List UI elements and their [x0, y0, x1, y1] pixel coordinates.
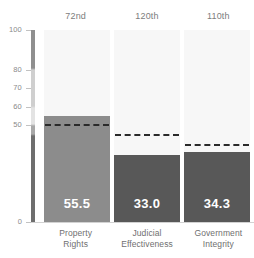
category-label-row: Property Rights Judicial Effectiveness G…	[40, 228, 254, 256]
bar-group-property-rights: 55.5	[44, 24, 110, 228]
rank-header-row: 72nd 120th 110th	[40, 8, 254, 24]
bar-value-government-integrity: 34.3	[184, 196, 250, 211]
category-label-judicial-effectiveness: Judicial Effectiveness	[111, 228, 182, 256]
rank-label-judicial-effectiveness: 120th	[111, 8, 182, 24]
bar-value-judicial-effectiveness: 33.0	[114, 196, 180, 211]
category-label-government-integrity: Government Integrity	[183, 228, 254, 256]
axis-spine	[31, 30, 35, 223]
world-average-line-property-rights	[45, 124, 109, 126]
bar-value-property-rights: 55.5	[44, 196, 110, 211]
world-average-line-government-integrity	[185, 144, 249, 146]
bar-chart: 72nd 120th 110th 100 80 70 60 50 0	[0, 0, 254, 258]
y-tick-0: 0	[0, 217, 32, 227]
y-tick-60: 60	[0, 102, 32, 112]
y-tick-50: 50	[0, 120, 32, 130]
bar-judicial-effectiveness[interactable]: 33.0	[114, 155, 180, 222]
x-axis-baseline	[31, 222, 254, 223]
plot-area: 55.5 33.0 34.3	[40, 24, 254, 228]
bar-group-judicial-effectiveness: 33.0	[114, 24, 180, 228]
category-label-property-rights: Property Rights	[40, 228, 111, 256]
bar-group-government-integrity: 34.3	[184, 24, 250, 228]
bar-government-integrity[interactable]: 34.3	[184, 152, 250, 222]
world-average-line-judicial-effectiveness	[115, 134, 179, 136]
rank-label-property-rights: 72nd	[40, 8, 111, 24]
y-tick-80: 80	[0, 65, 32, 75]
rank-label-government-integrity: 110th	[183, 8, 254, 24]
y-tick-100: 100	[0, 25, 32, 35]
bar-property-rights[interactable]: 55.5	[44, 116, 110, 222]
y-tick-70: 70	[0, 83, 32, 93]
